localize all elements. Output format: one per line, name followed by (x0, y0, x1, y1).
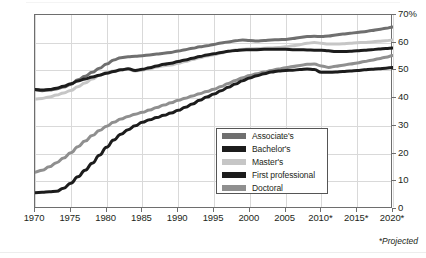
legend-swatch (222, 185, 246, 191)
legend-label: Bachelor's (252, 145, 290, 154)
legend: Associate'sBachelor'sMaster'sFirst profe… (216, 128, 328, 194)
x-tick-label: 2000 (229, 212, 269, 223)
legend-item: First professional (222, 169, 327, 181)
plot-area (34, 14, 392, 208)
y-tick-label: 20 (398, 148, 409, 158)
legend-label: Associate's (252, 132, 294, 141)
x-tick-label: 1995 (193, 212, 233, 223)
x-tick-label: 1990 (157, 212, 197, 223)
x-tick-label: 2015* (336, 212, 376, 223)
legend-swatch (222, 133, 246, 139)
y-tick-mark (392, 14, 396, 15)
x-tick-label: 2010* (300, 212, 340, 223)
y-tick-mark (392, 153, 396, 154)
y-tick-mark (392, 180, 396, 181)
projected-footnote: *Projected (379, 236, 418, 246)
x-tick-label: 1970 (14, 212, 54, 223)
y-tick-label: 60 (398, 37, 409, 47)
legend-swatch (222, 159, 246, 165)
y-tick-mark (392, 125, 396, 126)
series-line (35, 48, 393, 90)
y-tick-label: 30 (398, 120, 409, 130)
y-tick-mark (392, 69, 396, 70)
gridline-vertical (393, 15, 394, 207)
y-tick-mark (392, 42, 396, 43)
y-tick-label: 0 (398, 203, 403, 213)
y-tick-label: 50 (398, 64, 409, 74)
top-rule (26, 2, 400, 3)
x-tick-label: 2020* (372, 212, 412, 223)
chart-figure: 197019751980198519901995200020052010*201… (0, 0, 426, 258)
legend-label: Doctoral (252, 184, 283, 193)
series-lines (35, 15, 393, 209)
bottom-rule (0, 252, 426, 253)
x-tick-label: 1985 (121, 212, 161, 223)
legend-item: Associate's (222, 130, 327, 142)
y-tick-label: 70% (398, 9, 417, 19)
legend-item: Bachelor's (222, 143, 327, 155)
y-tick-mark (392, 97, 396, 98)
series-line (35, 67, 393, 192)
y-tick-label: 40 (398, 92, 409, 102)
legend-label: Master's (252, 158, 283, 167)
y-tick-mark (392, 208, 396, 209)
x-tick-label: 2005 (265, 212, 305, 223)
legend-swatch (222, 172, 246, 178)
y-tick-label: 10 (398, 175, 409, 185)
x-tick-label: 1975 (50, 212, 90, 223)
legend-swatch (222, 146, 246, 152)
legend-item: Doctoral (222, 182, 327, 194)
x-tick-label: 1980 (86, 212, 126, 223)
legend-label: First professional (252, 171, 315, 180)
legend-item: Master's (222, 156, 327, 168)
